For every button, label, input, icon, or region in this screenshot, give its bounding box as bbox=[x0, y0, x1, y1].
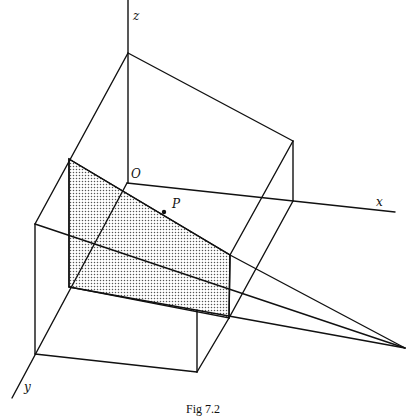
figure-caption: Fig 7.2 bbox=[186, 402, 220, 416]
x-axis-label: x bbox=[376, 195, 383, 209]
trace-line bbox=[230, 255, 405, 348]
shaded-plane bbox=[69, 159, 230, 318]
origin-label: O bbox=[131, 167, 141, 181]
box-edge bbox=[197, 318, 229, 372]
y-axis-label: y bbox=[23, 380, 31, 394]
box-edge bbox=[230, 141, 293, 255]
plane-edge bbox=[229, 255, 230, 318]
box-edge bbox=[35, 354, 197, 372]
plane-edge bbox=[69, 287, 405, 348]
box-edge bbox=[128, 53, 293, 141]
figure-7-2: z x y O P Fig 7.2 bbox=[0, 0, 413, 419]
z-axis-label: z bbox=[132, 9, 140, 23]
point-p-label: P bbox=[171, 197, 181, 211]
point-p bbox=[162, 210, 166, 214]
